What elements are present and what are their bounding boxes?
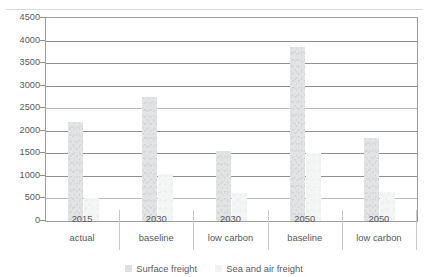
bar-surface-freight xyxy=(142,97,157,221)
y-axis-tick-label: 4000 xyxy=(2,36,40,45)
x-axis-category: 2030baseline xyxy=(119,208,193,252)
y-axis-tick-label: 2500 xyxy=(2,103,40,112)
gridline xyxy=(46,176,417,177)
gridline xyxy=(46,153,417,154)
y-axis-tick-label: 2000 xyxy=(2,126,40,135)
gridline xyxy=(46,41,417,42)
y-axis-tick-label: 4500 xyxy=(2,13,40,22)
title-divider xyxy=(6,9,422,10)
y-axis-tick xyxy=(40,152,45,153)
y-axis-tick xyxy=(40,197,45,198)
y-axis-tick xyxy=(40,107,45,108)
x-axis-category: 2050low carbon xyxy=(342,208,416,252)
x-axis-separator xyxy=(119,210,120,250)
plot-area xyxy=(45,17,418,222)
x-axis-category-year: 2050 xyxy=(342,213,416,224)
chart-title-clipped: Figure 4.2: Freight demand in the low ca… xyxy=(0,0,428,9)
x-axis-separator xyxy=(268,210,269,250)
y-axis-tick xyxy=(40,130,45,131)
x-axis-separator xyxy=(193,210,194,250)
x-axis-category: 2015actual xyxy=(45,208,119,252)
bar-surface-freight xyxy=(68,122,83,221)
x-axis-separator xyxy=(342,210,343,250)
x-axis-category-year: 2030 xyxy=(119,213,193,224)
x-axis-category-scenario: low carbon xyxy=(342,232,416,243)
x-axis-category-scenario: actual xyxy=(45,232,119,243)
x-axis-separator xyxy=(416,210,417,250)
gridline xyxy=(46,108,417,109)
legend-label: Surface freight xyxy=(136,263,197,274)
bar-surface-freight xyxy=(290,47,305,221)
legend-label: Sea and air freight xyxy=(226,263,303,274)
y-axis-tick xyxy=(40,40,45,41)
y-axis-tick-label: 500 xyxy=(2,193,40,202)
y-axis-tick-label: 3500 xyxy=(2,58,40,67)
x-axis-category-year: 2015 xyxy=(45,213,119,224)
x-axis-category-scenario: low carbon xyxy=(193,232,267,243)
x-axis: 2015actual2030baseline2030low carbon2050… xyxy=(45,208,418,252)
x-axis-category-scenario: baseline xyxy=(268,232,342,243)
x-axis-category-year: 2030 xyxy=(193,213,267,224)
y-axis-tick xyxy=(40,85,45,86)
gridline xyxy=(46,63,417,64)
gridline xyxy=(46,131,417,132)
bar-chart: 450040003500300025002000150010005000 xyxy=(0,14,428,226)
y-axis-tick xyxy=(40,62,45,63)
y-axis-tick xyxy=(40,17,45,18)
legend-item[interactable]: Sea and air freight xyxy=(215,263,303,274)
gridline xyxy=(46,86,417,87)
y-axis-tick xyxy=(40,175,45,176)
y-axis-tick-label: 3000 xyxy=(2,81,40,90)
legend-swatch-icon xyxy=(215,265,222,272)
y-axis-tick-label: 0 xyxy=(2,216,40,225)
legend-item[interactable]: Surface freight xyxy=(125,263,197,274)
x-axis-category: 2030low carbon xyxy=(193,208,267,252)
chart-legend: Surface freightSea and air freight xyxy=(0,260,428,277)
y-axis-tick-label: 1500 xyxy=(2,148,40,157)
x-axis-category-scenario: baseline xyxy=(119,232,193,243)
x-axis-category: 2050baseline xyxy=(268,208,342,252)
legend-swatch-icon xyxy=(125,265,132,272)
x-axis-category-year: 2050 xyxy=(268,213,342,224)
y-axis-tick-label: 1000 xyxy=(2,171,40,180)
